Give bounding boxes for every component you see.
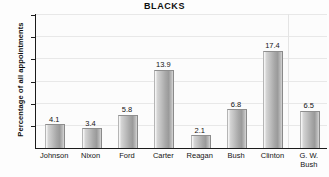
bar <box>45 124 65 148</box>
bar-value-label: 6.8 <box>231 101 241 109</box>
bar-slot: 2.1 <box>191 15 209 148</box>
y-tick-mark <box>31 126 35 127</box>
bar-slot: 13.9 <box>154 15 172 148</box>
bar-value-label: 17.4 <box>265 42 280 50</box>
y-tick-mark <box>31 15 35 16</box>
gridline <box>36 14 327 15</box>
gridline <box>36 36 327 37</box>
y-tick-mark <box>31 82 35 83</box>
bar <box>191 135 211 148</box>
x-tick-label: Johnson <box>36 151 72 160</box>
y-tick-mark <box>31 104 35 105</box>
y-axis-title: Percentage of all appointments <box>16 10 25 150</box>
bar-value-label: 2.1 <box>194 127 204 135</box>
x-tick-label: Carter <box>145 151 181 160</box>
x-tick-label: G. W. Bush <box>291 151 327 169</box>
bar-slot: 4.1 <box>45 15 63 148</box>
x-tick-label: Nixon <box>72 151 108 160</box>
bar-value-label: 5.8 <box>122 106 132 114</box>
bar <box>82 128 102 148</box>
y-tick-mark <box>31 37 35 38</box>
bar-value-label: 13.9 <box>156 61 171 69</box>
x-tick-label: Clinton <box>254 151 290 160</box>
bar-value-label: 6.5 <box>304 102 314 110</box>
bar <box>263 51 283 148</box>
bar-slot: 6.8 <box>227 15 245 148</box>
bar <box>300 111 320 148</box>
bar-value-label: 3.4 <box>85 120 95 128</box>
x-tick-label: Reagan <box>182 151 218 160</box>
bar <box>154 70 174 148</box>
category-divider <box>288 14 289 148</box>
x-tick-label: Ford <box>109 151 145 160</box>
bar-chart: BLACKS Percentage of all appointments 48… <box>0 0 329 177</box>
plot-area: 4.13.45.813.92.16.817.46.5 <box>36 15 327 148</box>
bar-slot: 5.8 <box>118 15 136 148</box>
bar <box>227 109 247 148</box>
bar <box>118 115 138 148</box>
chart-title: BLACKS <box>0 1 329 11</box>
bar-slot: 17.4 <box>263 15 281 148</box>
x-tick-label: Bush <box>218 151 254 160</box>
bar-value-label: 4.1 <box>49 116 59 124</box>
bar-slot: 3.4 <box>82 15 100 148</box>
bar-slot: 6.5 <box>300 15 318 148</box>
y-tick-mark <box>31 59 35 60</box>
